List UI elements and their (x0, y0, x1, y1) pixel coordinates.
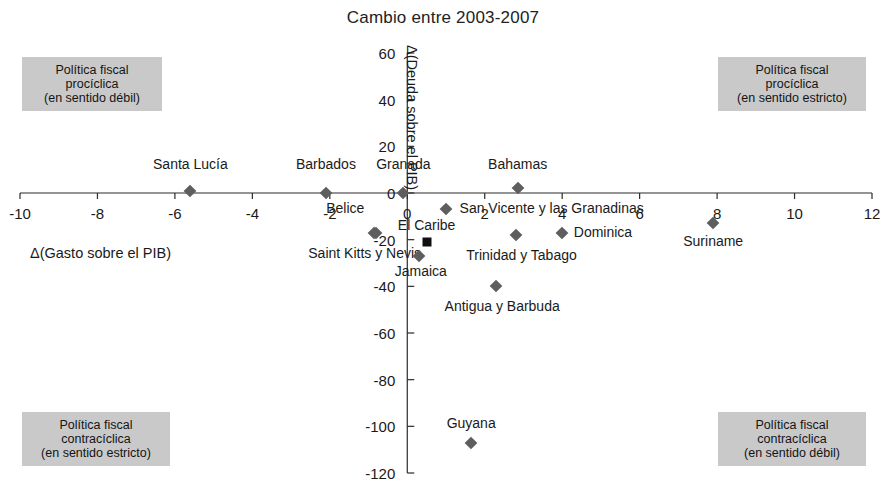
annotation-line: Política fiscal (726, 418, 858, 432)
data-point-label: Belice (326, 200, 364, 216)
annotation-line: Política fiscal (30, 418, 162, 432)
y-tick-label: 60 (335, 45, 395, 62)
annotation-line: contracíclica (726, 432, 858, 446)
data-point-label: Antigua y Barbuda (445, 298, 560, 314)
y-tick-label: -120 (335, 465, 395, 482)
data-point-label: Santa Lucía (153, 156, 228, 172)
x-tick-label: -10 (9, 205, 31, 222)
data-point-label: Saint Kitts y Nevis (308, 245, 421, 261)
annotation-line: procíclica (30, 77, 154, 91)
x-axis-title: Δ(Gasto sobre el PIB) (30, 245, 171, 261)
annotation-line: contracíclica (30, 432, 162, 446)
y-tick-label: -100 (335, 418, 395, 435)
data-point-label: San Vicente y las Granadinas (460, 200, 644, 216)
y-tick-label: -60 (335, 325, 395, 342)
data-point-label: Barbados (296, 156, 356, 172)
data-point-label: Suriname (683, 233, 743, 249)
annotation-countercyclical-strict: Política fiscalcontracíclica(en sentido … (22, 412, 170, 466)
scatter-chart: Cambio entre 2003-2007 Δ(Gasto sobre el … (0, 0, 886, 491)
x-tick-label: 12 (864, 205, 881, 222)
x-tick-label: 10 (786, 205, 803, 222)
data-point-label: Granada (376, 156, 430, 172)
annotation-procyclical-strict: Política fiscalprocíclica(en sentido est… (718, 57, 866, 111)
data-point-label: Jamaica (395, 263, 447, 279)
data-point-label: Bahamas (488, 156, 547, 172)
y-tick-label: 40 (335, 91, 395, 108)
annotation-line: procíclica (726, 77, 858, 91)
data-point-label: Trinidad y Tabago (466, 247, 577, 263)
annotation-line: (en sentido débil) (726, 446, 858, 460)
x-tick-label: -8 (91, 205, 104, 222)
y-tick-label: -80 (335, 371, 395, 388)
x-tick-label: -6 (168, 205, 181, 222)
annotation-countercyclical-weak: Política fiscalcontracíclica(en sentido … (718, 412, 866, 466)
data-point-label: El Caribe (398, 217, 456, 233)
y-tick-label: 20 (335, 138, 395, 155)
annotation-line: Política fiscal (30, 63, 154, 77)
y-tick-label: -40 (335, 278, 395, 295)
data-point-label: Dominica (574, 224, 632, 240)
annotation-line: (en sentido estricto) (30, 446, 162, 460)
data-point-marker (422, 238, 431, 247)
y-tick-label: 0 (335, 185, 395, 202)
x-tick-label: -4 (246, 205, 259, 222)
data-point-label: Guyana (447, 415, 496, 431)
annotation-line: (en sentido débil) (30, 91, 154, 105)
annotation-procyclical-weak: Política fiscalprocíclica(en sentido déb… (22, 57, 162, 111)
annotation-line: (en sentido estricto) (726, 91, 858, 105)
annotation-line: Política fiscal (726, 63, 858, 77)
